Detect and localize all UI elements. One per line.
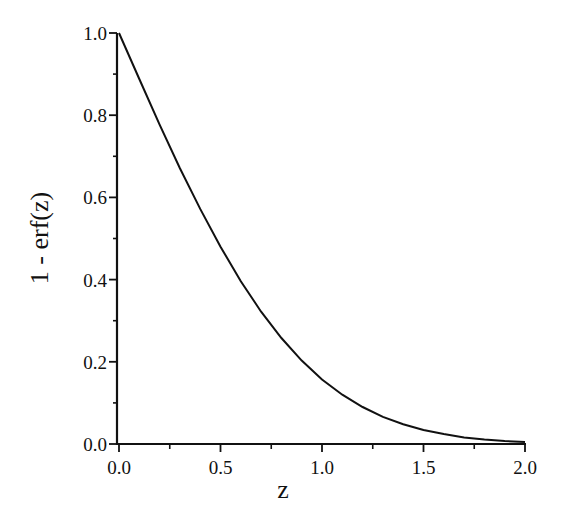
axes bbox=[116, 33, 526, 445]
y-axis-label: 1 - erf(z) bbox=[25, 192, 54, 284]
x-tick-label: 2.0 bbox=[513, 457, 537, 478]
ticks bbox=[109, 33, 525, 452]
x-tick-label: 1.0 bbox=[310, 457, 334, 478]
tick-labels: 0.00.51.01.52.00.00.20.40.60.81.0 bbox=[83, 23, 537, 478]
y-tick-label: 1.0 bbox=[83, 23, 107, 44]
erfc-curve bbox=[119, 33, 525, 442]
x-axis-label: z bbox=[277, 475, 289, 504]
x-tick-label: 0.5 bbox=[209, 457, 233, 478]
y-tick-label: 0.2 bbox=[83, 352, 107, 373]
chart-canvas: 0.00.51.01.52.00.00.20.40.60.81.0 z 1 - … bbox=[0, 0, 575, 524]
x-tick-label: 1.5 bbox=[412, 457, 436, 478]
y-tick-label: 0.4 bbox=[83, 270, 107, 291]
y-tick-label: 0.0 bbox=[83, 434, 107, 455]
x-tick-label: 0.0 bbox=[107, 457, 131, 478]
y-tick-label: 0.8 bbox=[83, 105, 107, 126]
y-tick-label: 0.6 bbox=[83, 187, 107, 208]
